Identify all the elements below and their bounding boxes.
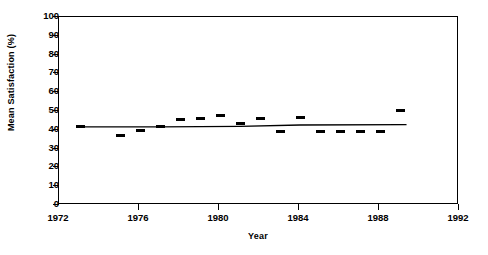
data-marker bbox=[136, 129, 145, 132]
data-marker bbox=[336, 130, 345, 133]
satisfaction-trend-chart: Mean Satisfaction (%) 010203040506070809… bbox=[0, 0, 488, 255]
data-marker bbox=[76, 125, 85, 128]
data-marker bbox=[216, 114, 225, 117]
data-marker bbox=[316, 130, 325, 133]
data-marker bbox=[396, 109, 405, 112]
data-marker bbox=[116, 134, 125, 137]
data-marker bbox=[236, 122, 245, 125]
data-marker bbox=[196, 117, 205, 120]
data-marker bbox=[356, 130, 365, 133]
data-marker bbox=[176, 118, 185, 121]
data-marker bbox=[376, 130, 385, 133]
data-marker bbox=[276, 130, 285, 133]
trend-line bbox=[0, 0, 488, 255]
data-marker bbox=[256, 117, 265, 120]
data-marker bbox=[296, 116, 305, 119]
x-axis-title: Year bbox=[58, 231, 458, 241]
data-marker bbox=[156, 125, 165, 128]
